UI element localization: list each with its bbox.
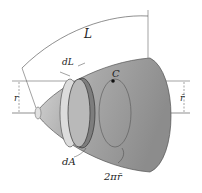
band-inner xyxy=(68,79,90,147)
circumference-label: 2πr̄ xyxy=(103,171,123,182)
radius-left-label: r xyxy=(14,93,19,103)
surface-body xyxy=(36,58,171,172)
length-extension-left xyxy=(22,68,36,108)
length-dimension-arc xyxy=(22,16,148,68)
dl-tick-right xyxy=(78,63,85,66)
radius-right-label: r̄ xyxy=(180,93,185,103)
diagram-stage: L dL C r r̄ dA 2πr̄ xyxy=(0,0,202,193)
arc-element-label: dL xyxy=(62,57,74,67)
length-label: L xyxy=(83,27,92,41)
dl-tick-left xyxy=(60,72,70,76)
centroid-point xyxy=(111,79,115,83)
nose-tip xyxy=(35,107,41,119)
area-element-label: dA xyxy=(62,156,76,167)
centroid-label: C xyxy=(112,68,120,79)
surface-of-revolution-diagram: L dL C r r̄ dA 2πr̄ xyxy=(0,0,202,193)
